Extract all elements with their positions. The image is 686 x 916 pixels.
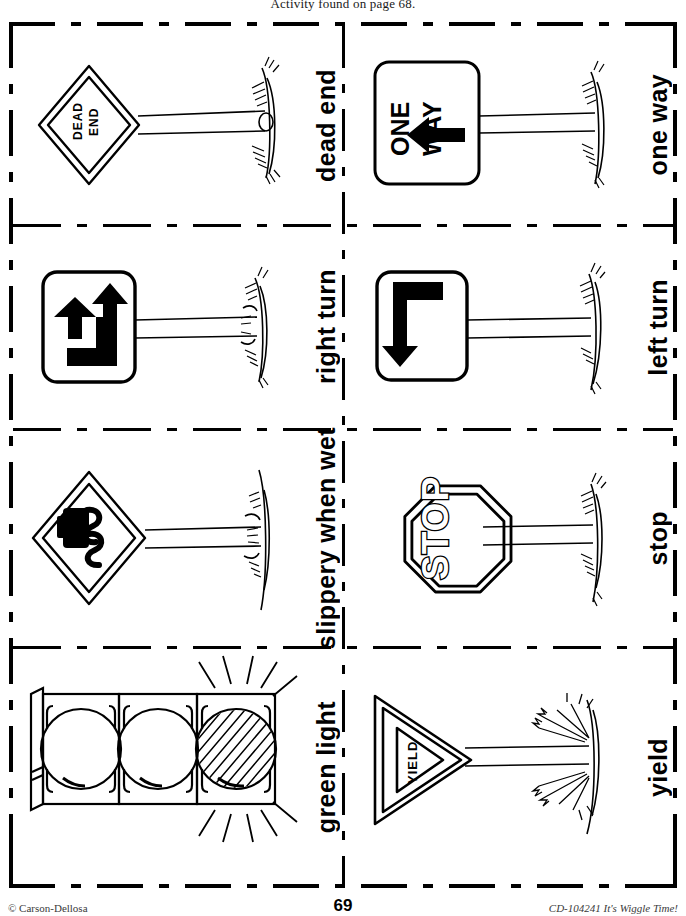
cut-line-horizontal-3: [13, 646, 673, 649]
svg-text:DEAD: DEAD: [71, 102, 85, 140]
corner-br-h: [643, 884, 677, 888]
corner-br-v: [673, 854, 677, 888]
cut-line-horizontal-2: [13, 428, 673, 431]
card-one-way[interactable]: ONE WAY one way: [349, 28, 671, 222]
cut-line-vertical: [342, 26, 345, 884]
card-label-yield: yield: [644, 738, 671, 797]
svg-text:ONE: ONE: [386, 102, 414, 156]
sheet-edge-bottom: [9, 884, 677, 888]
card-slippery-when-wet[interactable]: slippery when wet: [15, 434, 339, 642]
card-left-turn[interactable]: left turn: [349, 230, 671, 424]
card-label-green-light: green light: [312, 701, 339, 833]
sign-illustration-left-turn: [349, 230, 644, 424]
sign-illustration-yield: YIELD: [349, 652, 644, 882]
sign-illustration-slippery-when-wet: [15, 434, 312, 642]
corner-bl-v: [9, 854, 13, 888]
svg-text:YIELD: YIELD: [405, 741, 420, 784]
corner-tl-v: [9, 22, 13, 56]
sign-illustration-dead-end: DEAD END: [15, 28, 312, 222]
card-green-light[interactable]: green light: [15, 652, 339, 882]
card-label-one-way: one way: [644, 74, 671, 175]
card-label-right-turn: right turn: [312, 269, 339, 384]
cut-line-horizontal-1: [13, 224, 673, 227]
card-label-stop: stop: [644, 511, 671, 565]
corner-tl-h: [9, 22, 43, 26]
svg-text:STOP: STOP: [415, 476, 456, 580]
card-dead-end[interactable]: DEAD END dead end: [15, 28, 339, 222]
sign-illustration-one-way: ONE WAY: [349, 28, 644, 222]
card-label-slippery-when-wet: slippery when wet: [312, 427, 339, 649]
sign-illustration-green-light: [15, 652, 312, 882]
corner-tr-h: [643, 22, 677, 26]
corner-tr-v: [673, 22, 677, 56]
cut-sheet: DEAD END dead end: [9, 22, 677, 888]
sign-illustration-right-turn: [15, 230, 312, 424]
sheet-edge-right: [673, 22, 677, 888]
card-right-turn[interactable]: right turn: [15, 230, 339, 424]
corner-bl-h: [9, 884, 43, 888]
svg-text:END: END: [87, 108, 101, 136]
card-label-dead-end: dead end: [312, 69, 339, 182]
footer-product-code: CD-104241 It's Wiggle Time!: [549, 902, 678, 914]
header-note: Activity found on page 68.: [0, 0, 686, 12]
sign-illustration-stop: STOP: [349, 434, 644, 642]
card-label-left-turn: left turn: [644, 279, 671, 376]
card-yield[interactable]: YIELD yield: [349, 652, 671, 882]
card-stop[interactable]: STOP stop: [349, 434, 671, 642]
sheet-edge-left: [9, 22, 13, 888]
